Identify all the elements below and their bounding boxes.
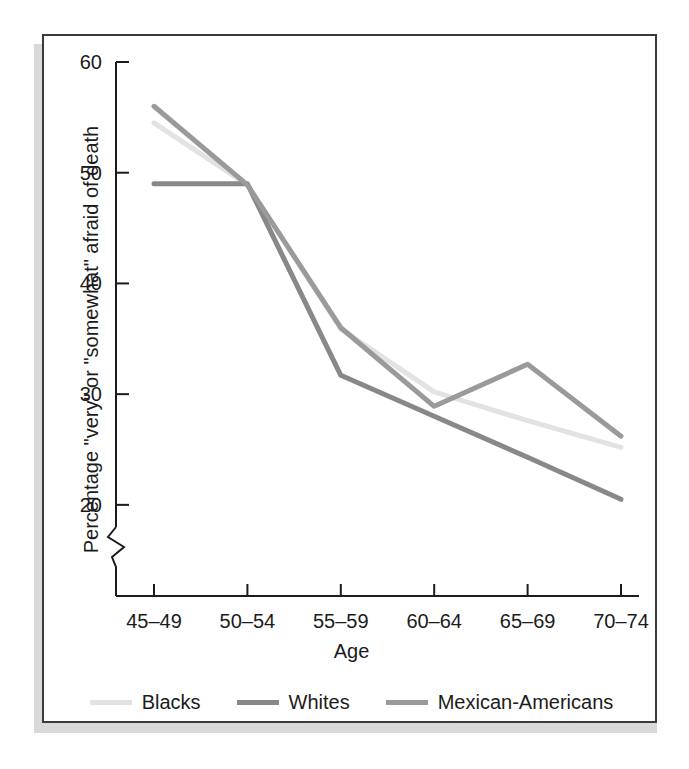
y-axis-break-icon: [108, 527, 124, 596]
legend-label-mexican-americans: Mexican-Americans: [438, 691, 614, 714]
legend-item-mexican-americans[interactable]: Mexican-Americans: [386, 691, 614, 714]
x-tick-label: 65–69: [500, 610, 556, 632]
axis-lines: [108, 62, 639, 596]
series-line-blacks: [154, 123, 621, 447]
x-tick-label: 45–49: [126, 610, 182, 632]
legend-item-blacks[interactable]: Blacks: [90, 691, 201, 714]
x-axis-ticks: [154, 584, 621, 596]
legend-swatch-whites: [237, 700, 279, 705]
series-line-whites: [154, 184, 621, 500]
x-axis-tick-labels: 45–4950–5455–5960–6465–6970–74: [126, 610, 649, 632]
chart-plot-area: 2030405060 45–4950–5455–5960–6465–6970–7…: [44, 36, 655, 721]
figure-frame: 2030405060 45–4950–5455–5960–6465–6970–7…: [42, 34, 657, 723]
x-tick-label: 70–74: [593, 610, 649, 632]
x-axis-title: Age: [44, 640, 659, 663]
series-line-mexican-americans: [154, 106, 621, 436]
y-axis-ticks: [116, 62, 129, 505]
legend-label-blacks: Blacks: [142, 691, 201, 714]
legend-swatch-mexican-americans: [386, 700, 428, 705]
x-tick-label: 50–54: [220, 610, 276, 632]
legend-label-whites: Whites: [289, 691, 350, 714]
line-chart-svg: 2030405060 45–4950–5455–5960–6465–6970–7…: [44, 36, 655, 725]
legend-swatch-blacks: [90, 700, 132, 705]
y-tick-label: 60: [80, 51, 102, 73]
x-tick-label: 60–64: [406, 610, 462, 632]
data-series-group: [154, 106, 621, 499]
x-tick-label: 55–59: [313, 610, 369, 632]
chart-legend: Blacks Whites Mexican-Americans: [44, 691, 659, 714]
legend-item-whites[interactable]: Whites: [237, 691, 350, 714]
y-axis-title: Percentage "very" or "somewhat" afraid o…: [80, 125, 103, 555]
